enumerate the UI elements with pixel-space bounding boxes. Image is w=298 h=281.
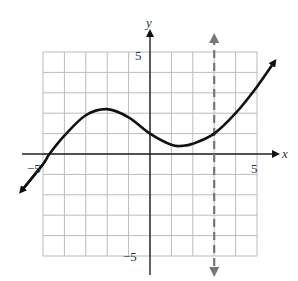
svg-text:x: x [281, 146, 288, 161]
graph: xy5−55−5 [0, 0, 298, 281]
function-curve [22, 62, 275, 191]
svg-text:5: 5 [135, 48, 142, 63]
svg-text:y: y [144, 15, 152, 30]
svg-text:−5: −5 [27, 161, 41, 176]
svg-text:−5: −5 [123, 249, 137, 264]
axes [22, 33, 276, 275]
svg-text:5: 5 [251, 161, 258, 176]
